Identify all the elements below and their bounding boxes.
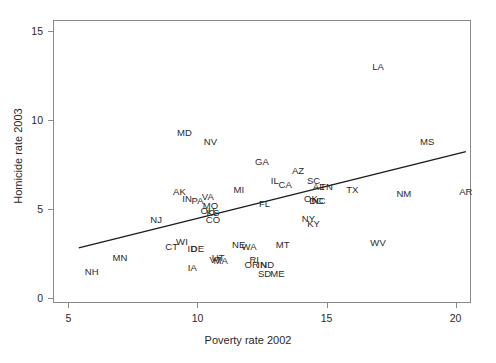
y-axis-title: Homicide rate 2003 — [12, 76, 24, 236]
y-tick-mark — [48, 298, 53, 299]
y-tick-label: 0 — [21, 292, 43, 304]
x-tick-label: 10 — [192, 312, 204, 324]
x-tick-label: 5 — [66, 312, 72, 324]
x-tick-mark — [68, 303, 69, 308]
y-tick-mark — [48, 31, 53, 32]
y-tick-label: 10 — [21, 114, 43, 126]
chart-container: LAMDNVMSGAAZILCASCALTNTXNMARMIAKINPAVAMO… — [0, 0, 496, 363]
x-tick-label: 15 — [321, 312, 333, 324]
x-tick-label: 20 — [450, 312, 462, 324]
y-tick-mark — [48, 120, 53, 121]
x-tick-mark — [456, 303, 457, 308]
y-tick-label: 15 — [21, 25, 43, 37]
y-tick-label: 5 — [21, 203, 43, 215]
x-axis-title: Poverty rate 2002 — [0, 334, 496, 346]
y-tick-mark — [48, 209, 53, 210]
x-tick-mark — [197, 303, 198, 308]
trendline-segment — [79, 152, 466, 248]
x-tick-mark — [327, 303, 328, 308]
regression-trendline — [0, 0, 496, 363]
